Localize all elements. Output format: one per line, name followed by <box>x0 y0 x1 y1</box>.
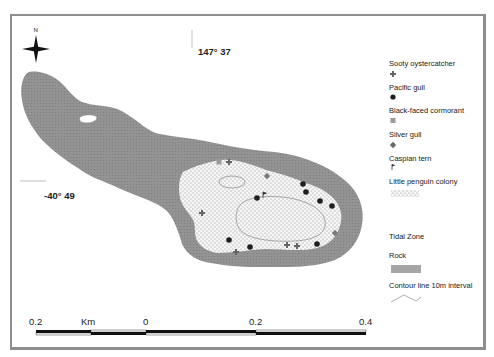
pacific-gull-marker <box>303 189 309 195</box>
legend-sooty-oystercatcher-icon <box>390 71 396 77</box>
scale-bar <box>36 330 366 335</box>
legend-cormorant-icon <box>391 118 396 123</box>
legend-label-little-penguin-colony: Little penguin colony <box>389 177 457 186</box>
pacific-gull-marker <box>317 198 323 204</box>
legend-label-sooty-oystercatcher: Sooty oystercatcher <box>389 59 455 68</box>
legend-label-tidal-zone: Tidal Zone <box>389 232 424 241</box>
legend-penguin-colony-swatch <box>391 190 419 197</box>
scale-tick-left: 0.2 <box>29 316 42 327</box>
legend-label-pacific-gull: Pacific gull <box>389 83 425 92</box>
legend-pacific-gull-icon <box>390 94 395 99</box>
scale-tick-zero: 0 <box>143 316 148 327</box>
legend-silver-gull-icon <box>390 142 396 148</box>
legend-contour-icon <box>391 295 421 302</box>
legend-label-contour-line: Contour line 10m interval <box>389 281 472 290</box>
pacific-gull-marker <box>254 195 260 201</box>
pacific-gull-marker <box>314 241 320 247</box>
legend-label-silver-gull: Silver gull <box>389 130 422 139</box>
pacific-gull-marker <box>247 244 253 250</box>
legend-label-caspian-tern: Caspian tern <box>389 154 432 163</box>
legend-label-black-faced-cormorant: Black-faced cormorant <box>389 106 464 115</box>
scale-unit-label: Km <box>81 316 95 327</box>
legend-rock-swatch <box>391 265 421 273</box>
pacific-gull-marker <box>329 203 335 209</box>
north-arrow-icon <box>22 35 50 63</box>
pacific-gull-marker <box>226 237 232 243</box>
scale-tick-right: 0.4 <box>359 316 372 327</box>
legend-caspian-tern-icon <box>392 164 396 170</box>
longitude-label: 147° 37 <box>198 46 231 57</box>
north-label: N <box>34 27 38 33</box>
legend-label-rock: Rock <box>389 251 406 260</box>
pacific-gull-marker <box>300 181 306 187</box>
scale-tick-mid: 0.2 <box>249 316 262 327</box>
cormorant-marker <box>217 160 222 165</box>
latitude-label: -40° 49 <box>44 190 75 201</box>
